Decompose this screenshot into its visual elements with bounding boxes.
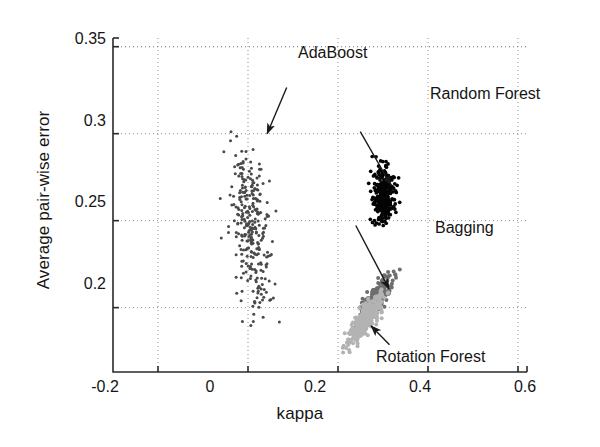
series-random-forest <box>367 155 402 228</box>
xtick-label-1: 0 <box>172 378 248 396</box>
arrow-bagging <box>356 226 389 289</box>
arrow-rotation-forest <box>371 326 389 345</box>
annotation-label-bagging: Bagging <box>435 219 494 237</box>
series-adaboost <box>219 130 281 327</box>
annotation-label-random-forest: Random Forest <box>430 85 540 103</box>
arrow-adaboost <box>267 88 287 134</box>
xtick-label-0: -0.2 <box>67 378 143 396</box>
xtick-label-2: 0.2 <box>277 378 353 396</box>
y-axis-title: Average pair-wise error <box>34 30 54 370</box>
xtick-label-4: 0.6 <box>487 378 563 396</box>
annotation-label-adaboost: AdaBoost <box>298 44 367 62</box>
annotation-label-rotation-forest: Rotation Forest <box>376 348 485 366</box>
series-rotation-forest <box>341 287 391 354</box>
scatter-plot-figure: -0.2 0 0.2 0.4 0.6 0.2 0.25 0.3 0.35 kap… <box>0 0 600 447</box>
xtick-label-3: 0.4 <box>382 378 458 396</box>
x-axis-title: kappa <box>0 404 600 424</box>
data-points-layer <box>219 130 402 354</box>
